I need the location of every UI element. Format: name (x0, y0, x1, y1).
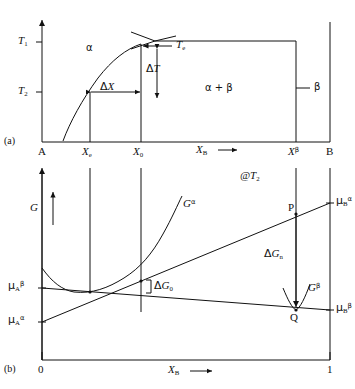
beta-region-label: β (314, 82, 320, 92)
point-q-label: Q (290, 312, 298, 323)
panel-b-y-axis-label: G (30, 202, 38, 213)
panel-b-left-endpoint: 0 (38, 364, 44, 375)
tangent-line-alpha (42, 203, 330, 322)
mu-b-alpha-label: μBα (336, 195, 352, 207)
axis-tick-t1: T1 (18, 35, 28, 47)
alpha-beta-region-label: α + β (205, 83, 233, 93)
delta-g0-bracket (146, 280, 151, 293)
g-alpha-label: Gα (183, 198, 195, 209)
panel-a-x-axis-label: XB (196, 144, 207, 156)
mu-a-beta-label: μAβ (8, 280, 24, 292)
point-p-label: P (288, 202, 294, 213)
x0-dot-b (139, 279, 142, 282)
tangent-line-beta (42, 288, 330, 310)
delta-t-label: ΔT (146, 63, 160, 74)
figure-container: (a) T1 T2 A B Xe X0 Xβ XB α α + β β Te Δ… (0, 0, 355, 389)
axis-tick-t2: T2 (18, 85, 28, 97)
panel-b-x-axis-label: XB (168, 364, 179, 376)
caret-tail (155, 36, 176, 41)
panel-a-tick-label-xe: Xe (82, 146, 92, 158)
panel-b-tag: (b) (4, 364, 16, 374)
delta-g0-label: ΔG0 (154, 280, 173, 292)
panel-a-left-endpoint: A (38, 146, 46, 157)
panel-a-right-endpoint: B (326, 146, 333, 157)
temperature-note: @T2 (240, 170, 260, 182)
panel-a-tag: (a) (4, 136, 15, 146)
xe-dot-b (88, 290, 91, 293)
g-alpha-curve (42, 196, 182, 292)
mu-a-alpha-label: μAα (8, 314, 24, 326)
alpha-region-label: α (86, 43, 93, 53)
te-label: Te (176, 39, 185, 51)
panel-b-right-endpoint: 1 (327, 364, 333, 375)
diagram-lines (0, 0, 355, 389)
g-beta-label: Gβ (308, 282, 320, 293)
panel-a-tick-label-x0: X0 (133, 146, 143, 158)
delta-x-label: ΔX (100, 81, 114, 92)
mu-b-beta-label: μBβ (336, 302, 352, 314)
point-p-dot (294, 212, 297, 215)
panel-a-tick-label-xbeta: Xβ (288, 146, 299, 157)
delta-gn-label: ΔGn (264, 248, 283, 260)
